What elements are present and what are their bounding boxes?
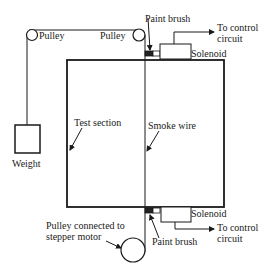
solenoid-top-box bbox=[160, 44, 191, 59]
label-pulley-left: Pulley bbox=[39, 30, 65, 41]
arrow-pulley-motor bbox=[106, 241, 121, 248]
label-solenoid-top: Solenoid bbox=[191, 48, 227, 59]
label-pulley-right: Pulley bbox=[100, 30, 126, 41]
arrow-paint-brush-bottom bbox=[150, 215, 159, 238]
label-to-control-bottom-1: To control bbox=[217, 222, 258, 233]
label-smoke-wire: Smoke wire bbox=[148, 120, 196, 131]
pulley-left-icon bbox=[27, 30, 38, 41]
arrow-test-section bbox=[70, 128, 82, 150]
pulley-right-icon bbox=[133, 29, 145, 41]
solenoid-bottom-box bbox=[161, 207, 191, 222]
arrow-smoke-wire bbox=[147, 131, 159, 151]
solenoid-plunger-bottom bbox=[153, 208, 160, 213]
arrow-to-control-bottom bbox=[175, 222, 214, 229]
label-to-control-bottom-2: circuit bbox=[217, 233, 243, 244]
paint-brush-bottom-icon bbox=[145, 208, 153, 213]
label-paint-brush-top: Paint brush bbox=[145, 13, 190, 24]
label-paint-brush-bottom: Paint brush bbox=[152, 236, 197, 247]
label-pulley-motor-1: Pulley connected to bbox=[46, 220, 125, 231]
pulley-stepper-motor-icon bbox=[121, 238, 145, 262]
label-to-control-top-2: circuit bbox=[217, 33, 243, 44]
solenoid-plunger-top bbox=[153, 51, 160, 56]
paint-brush-top-icon bbox=[145, 51, 153, 56]
label-test-section: Test section bbox=[74, 117, 121, 128]
arrow-to-control-top bbox=[174, 32, 214, 44]
label-solenoid-bottom: Solenoid bbox=[191, 208, 227, 219]
label-to-control-top-1: To control bbox=[217, 22, 258, 33]
weight-box bbox=[15, 125, 40, 153]
label-pulley-motor-2: stepper motor bbox=[46, 231, 101, 242]
label-weight: Weight bbox=[12, 158, 41, 169]
